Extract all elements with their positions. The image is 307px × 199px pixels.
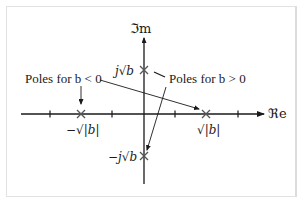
pole-diagram: ℑm ℜe −√|b| √|b| j√b −j√b Poles for b < … bbox=[0, 0, 307, 199]
imaginary-axis-label: ℑm bbox=[130, 21, 151, 36]
pole-label-pos-imag: j√b bbox=[112, 64, 134, 78]
real-axis bbox=[21, 111, 264, 118]
annotation-poles-b-negative: Poles for b < 0 bbox=[25, 71, 102, 86]
real-axis-label: ℜe bbox=[268, 106, 287, 121]
pole-label-neg-imag: −j√b bbox=[108, 150, 137, 164]
pole-label-pos-real: √|b| bbox=[197, 123, 220, 137]
annotation-poles-b-positive: Poles for b > 0 bbox=[169, 71, 246, 86]
pole-label-neg-real: −√|b| bbox=[66, 123, 99, 137]
